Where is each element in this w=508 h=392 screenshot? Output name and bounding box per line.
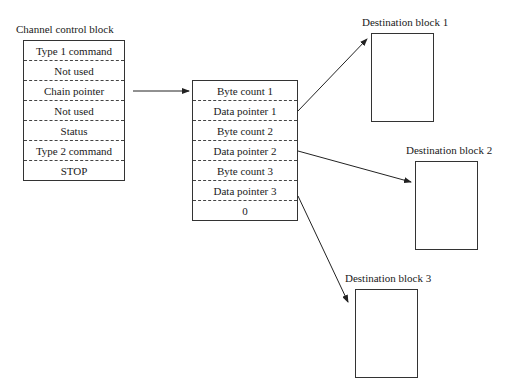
arrow-data-pointer-1 bbox=[298, 39, 367, 111]
arrow-data-pointer-2 bbox=[298, 151, 411, 182]
arrows-layer bbox=[0, 0, 508, 392]
arrow-data-pointer-3 bbox=[298, 196, 348, 302]
